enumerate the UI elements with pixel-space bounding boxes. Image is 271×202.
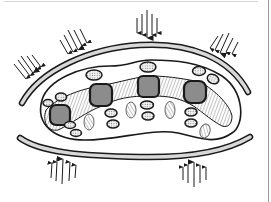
node-3 [138, 76, 159, 97]
figure-frame: Schematic cross-section of a compressed … [0, 0, 271, 202]
force-arrows-upper-right [210, 33, 238, 54]
node-4 [184, 81, 206, 103]
force-arrows-bottom-left [51, 159, 76, 184]
force-arrows-bottom-right [183, 162, 206, 187]
force-arrows-upper-center-left [60, 29, 87, 54]
force-arrows-top-center [137, 10, 157, 38]
force-arrows-upper-left [14, 55, 41, 79]
diagram-canvas [0, 0, 271, 202]
node-2 [90, 84, 112, 106]
